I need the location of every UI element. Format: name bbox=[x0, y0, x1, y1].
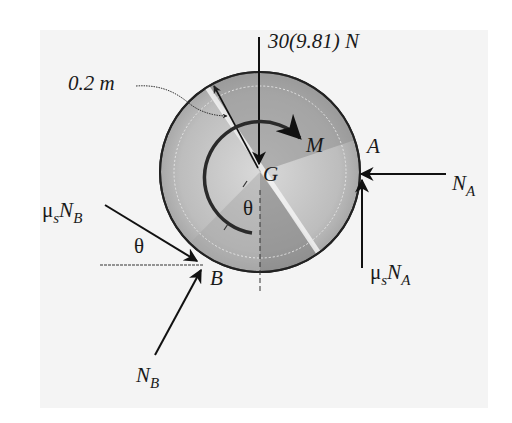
normal-force-b-arrow bbox=[155, 270, 201, 355]
friction-force-b-label: μsNB bbox=[42, 200, 82, 226]
friction-force-a-label: μsNA bbox=[370, 262, 410, 288]
angle-b-label: θ bbox=[134, 236, 144, 257]
center-label: G bbox=[263, 164, 278, 185]
weight-label: 30(9.81) N bbox=[268, 31, 359, 52]
point-a-label: A bbox=[367, 136, 380, 157]
point-b-label: B bbox=[210, 268, 223, 289]
angle-center-label: θ bbox=[243, 198, 253, 219]
radius-label: 0.2 m bbox=[68, 73, 115, 94]
moment-label: M bbox=[306, 135, 324, 156]
normal-force-b-label: NB bbox=[136, 365, 159, 391]
normal-force-a-label: NA bbox=[452, 173, 475, 199]
